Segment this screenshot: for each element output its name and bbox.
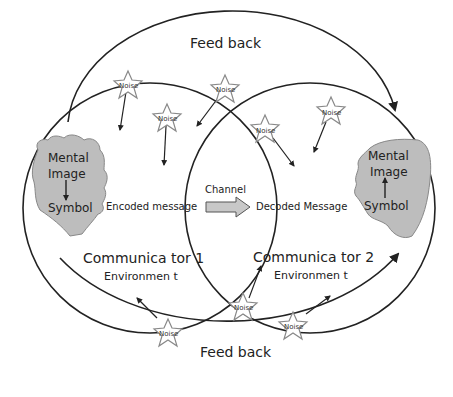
communicator-2-environment: Environmen t bbox=[274, 269, 348, 282]
decoded-message-label: Decoded Message bbox=[256, 201, 347, 212]
svg-text:Noise: Noise bbox=[256, 127, 275, 135]
noise-5: Noise bbox=[314, 97, 345, 152]
mental-image-right-line1: Mental bbox=[368, 149, 409, 163]
noise-3: Noise bbox=[197, 75, 239, 126]
channel-arrow-icon bbox=[206, 197, 250, 217]
noise-6: Noise bbox=[137, 298, 182, 346]
communicator-1-environment: Environmen t bbox=[104, 270, 178, 283]
feedback-bottom-label: Feed back bbox=[200, 344, 272, 360]
feedback-top-label: Feed back bbox=[190, 35, 262, 51]
communication-diagram: Mental Image Symbol Mental Image Symbol … bbox=[0, 0, 453, 397]
channel-label: Channel bbox=[205, 184, 246, 195]
noise-2: Noise bbox=[153, 104, 181, 165]
communicator-1-title: Communica tor 1 bbox=[83, 250, 204, 266]
svg-text:Noise: Noise bbox=[234, 304, 253, 312]
svg-text:Noise: Noise bbox=[119, 82, 138, 90]
svg-text:Noise: Noise bbox=[216, 86, 235, 94]
communicator-2-title: Communica tor 2 bbox=[253, 249, 374, 265]
feedback-top-arc bbox=[68, 11, 395, 122]
svg-text:Noise: Noise bbox=[159, 330, 178, 338]
svg-text:Noise: Noise bbox=[322, 109, 341, 117]
noise-4: Noise bbox=[251, 115, 294, 166]
symbol-left: Symbol bbox=[48, 201, 93, 215]
encoded-message-label: Encoded message bbox=[106, 201, 197, 212]
svg-text:Noise: Noise bbox=[158, 115, 177, 123]
svg-text:Noise: Noise bbox=[284, 323, 303, 331]
mental-image-left-line2: Image bbox=[48, 167, 86, 181]
noise-7: Noise bbox=[229, 266, 261, 320]
symbol-right: Symbol bbox=[364, 199, 409, 213]
mental-image-left-line1: Mental bbox=[48, 151, 89, 165]
mental-image-right-line2: Image bbox=[370, 165, 408, 179]
noise-1: Noise bbox=[114, 71, 142, 130]
